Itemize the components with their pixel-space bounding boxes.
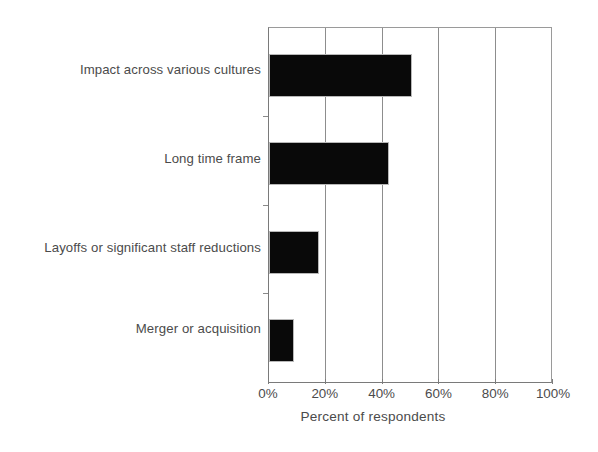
plot-area	[268, 27, 552, 383]
x-axis-tick-label-80: 80%	[482, 386, 509, 401]
y-axis-tick-label: Impact across various cultures	[0, 62, 261, 77]
x-axis-tick-mark-80	[495, 379, 496, 384]
x-axis-title: Percent of respondents	[0, 409, 598, 424]
bar-chart-figure: Impact across various cultures Long time…	[0, 0, 598, 452]
gridline-80	[495, 28, 496, 382]
bar-layoffs-or-significant-staff-reductions	[269, 231, 319, 274]
gridline-60	[438, 28, 439, 382]
x-axis-tick-mark-20	[325, 379, 326, 384]
category-label-3: Merger or acquisition	[136, 321, 261, 336]
y-axis-tick-mark	[263, 293, 268, 294]
y-axis-tick-mark	[263, 205, 268, 206]
bar-impact-across-various-cultures	[269, 54, 412, 97]
y-axis-tick-label: Merger or acquisition	[0, 321, 261, 336]
category-label-0: Impact across various cultures	[80, 62, 261, 77]
bar-long-time-frame	[269, 142, 389, 185]
bar-merger-or-acquisition	[269, 319, 294, 362]
x-axis-tick-mark-0	[268, 379, 269, 384]
x-axis-tick-mark-60	[438, 379, 439, 384]
y-axis-tick-mark	[263, 116, 268, 117]
x-axis-tick-label-60: 60%	[425, 386, 452, 401]
x-axis-tick-label-40: 40%	[368, 386, 395, 401]
x-axis-tick-label-100: 100%	[536, 386, 570, 401]
x-axis-tick-label-0: 0%	[258, 386, 277, 401]
y-axis-tick-label: Long time frame	[0, 151, 261, 166]
y-axis-tick-label: Layoffs or significant staff reductions	[0, 240, 261, 255]
x-axis-tick-mark-40	[382, 379, 383, 384]
category-label-1: Long time frame	[164, 151, 261, 166]
category-label-2: Layoffs or significant staff reductions	[44, 240, 261, 255]
x-axis-title-text: Percent of respondents	[301, 409, 446, 424]
x-axis-tick-label-20: 20%	[311, 386, 338, 401]
x-axis-tick-mark-100	[552, 379, 553, 384]
